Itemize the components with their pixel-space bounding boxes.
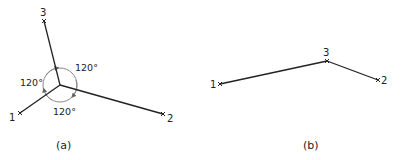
node-label-3: 3 xyxy=(323,47,329,58)
node-marker-icon xyxy=(218,59,380,86)
arrow-arc-icon xyxy=(73,80,77,96)
node-label-1: 1 xyxy=(9,112,15,123)
angle-label-left: 120° xyxy=(20,77,43,88)
figure-canvas: 3 1 2 120° 120° 120° (a) 1 3 2 (b) xyxy=(0,0,402,160)
node-label-2: 2 xyxy=(381,75,387,86)
angle-label-bottom: 120° xyxy=(53,106,76,117)
edge-1-3 xyxy=(220,61,327,84)
angle-label-top-right: 120° xyxy=(75,62,98,73)
edge-3-2 xyxy=(327,61,378,80)
node-label-1: 1 xyxy=(210,79,216,90)
node-label-3: 3 xyxy=(40,7,46,18)
caption-b: (b) xyxy=(303,139,319,152)
caption-a: (a) xyxy=(56,139,71,152)
diagram-b: 1 3 2 (b) xyxy=(210,47,387,152)
node-label-2: 2 xyxy=(167,113,173,124)
diagram-a: 3 1 2 120° 120° 120° (a) xyxy=(9,7,173,152)
